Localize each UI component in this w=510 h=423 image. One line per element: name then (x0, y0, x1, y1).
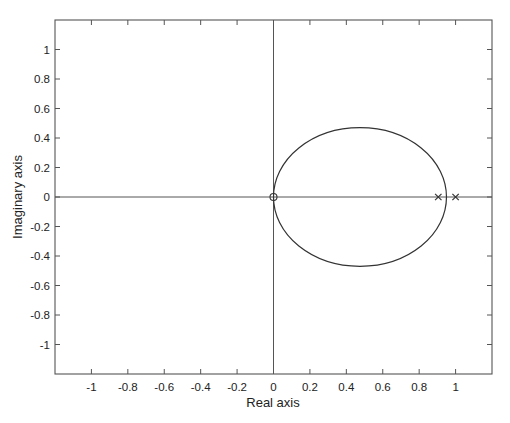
root-locus-chart: -1-0.8-0.6-0.4-0.200.20.40.60.81 10.80.6… (0, 0, 510, 423)
y-tick-label: 0.2 (34, 162, 50, 174)
y-tick-label: 0.6 (34, 103, 50, 115)
y-tick-label: -0.4 (30, 250, 50, 262)
x-tick-label: 0.4 (338, 381, 355, 393)
y-tick-label: -0.8 (30, 309, 50, 321)
x-tick-label: -0.4 (191, 381, 211, 393)
x-tick-label: -0.6 (154, 381, 174, 393)
y-tick-label: -0.2 (30, 221, 50, 233)
x-tick-label: -1 (86, 381, 96, 393)
x-tick-label: 0.8 (411, 381, 427, 393)
x-tick-label: 1 (452, 381, 458, 393)
x-tick-label: 0.6 (375, 381, 391, 393)
x-tick-label: -0.8 (118, 381, 138, 393)
y-axis-label: Imaginary axis (10, 155, 25, 239)
x-axis-ticks: -1-0.8-0.6-0.4-0.200.20.40.60.81 (86, 20, 458, 393)
y-tick-label: 1 (44, 44, 50, 56)
y-tick-label: 0.4 (34, 132, 51, 144)
x-tick-label: 0.2 (302, 381, 318, 393)
x-tick-label: -0.2 (227, 381, 247, 393)
y-tick-label: -1 (40, 339, 50, 351)
x-tick-label: 0 (270, 381, 276, 393)
x-axis-label: Real axis (246, 395, 300, 410)
y-tick-label: -0.6 (30, 280, 50, 292)
y-tick-label: 0 (44, 191, 50, 203)
y-tick-label: 0.8 (34, 73, 50, 85)
